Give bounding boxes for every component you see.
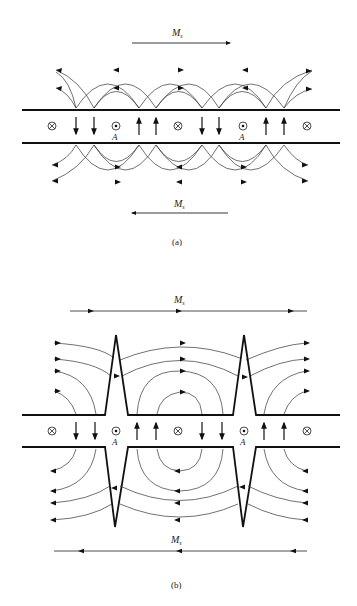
domain-wall-diagram: Ms — [0, 0, 357, 606]
cross-into-icon — [303, 122, 311, 130]
film-bottom-edge-b — [22, 447, 340, 527]
stray-field-lines-top-a — [56, 70, 312, 108]
caption-a: (a) — [172, 237, 182, 247]
dot-out-icon — [112, 122, 120, 130]
film-magnetization-a: A A — [48, 117, 311, 142]
dot-out-icon — [239, 122, 247, 130]
cross-into-icon — [48, 122, 56, 130]
wall-label-a2: A — [238, 132, 245, 142]
cross-into-icon — [174, 122, 182, 130]
panel-a: Ms — [22, 27, 340, 247]
caption-b: (b) — [171, 580, 182, 590]
ms-arrow-bottom-a: Ms — [132, 198, 228, 213]
stray-field-lines-bottom-a — [52, 145, 308, 181]
svg-text:Ms: Ms — [170, 534, 182, 546]
svg-text:Ms: Ms — [173, 294, 185, 306]
film-magnetization-b: A A — [48, 422, 311, 447]
cross-into-icon — [48, 427, 56, 435]
stray-field-lines-top-b — [54, 343, 306, 414]
cross-into-icon — [174, 427, 182, 435]
svg-text:Ms: Ms — [171, 27, 183, 39]
ms-arrow-top-a: Ms — [132, 27, 230, 43]
ms-arrow-bottom-b: Ms — [54, 534, 307, 553]
wall-label-a1: A — [111, 132, 118, 142]
wall-label-b2: A — [239, 437, 246, 447]
svg-text:Ms: Ms — [173, 198, 185, 210]
wall-label-b1: A — [111, 437, 118, 447]
dot-out-icon — [240, 427, 248, 435]
cross-into-icon — [303, 427, 311, 435]
stray-field-lines-bottom-b — [52, 449, 306, 520]
field-arrowheads-bottom-a — [52, 163, 308, 185]
ms-arrow-top-b: Ms — [70, 294, 307, 313]
dot-out-icon — [112, 427, 120, 435]
panel-b: Ms — [22, 294, 340, 590]
